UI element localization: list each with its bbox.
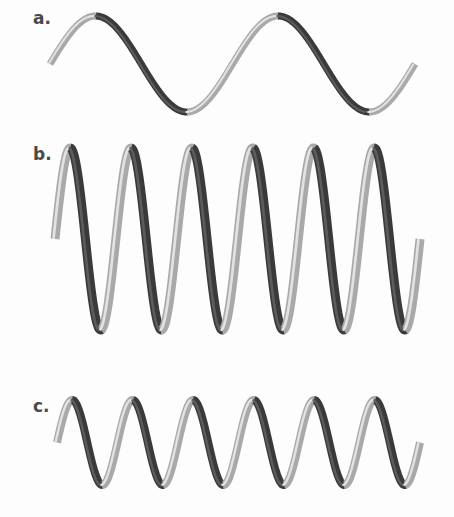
waves-svg <box>0 0 454 517</box>
ribbon-falling-segment <box>314 400 345 485</box>
ribbon-rising-segment <box>222 148 254 330</box>
ribbon-highlight <box>186 16 278 112</box>
ribbon-falling-segment <box>278 16 370 112</box>
ribbon-rising-segment <box>344 400 376 485</box>
wave-c <box>56 400 421 485</box>
ribbon-falling-segment <box>192 148 223 330</box>
ribbon-falling-segment <box>96 16 188 112</box>
ribbon-falling-segment <box>374 148 406 330</box>
ribbon-highlight <box>95 16 187 112</box>
ribbon-rising-segment <box>163 400 194 485</box>
wave-b <box>54 148 421 330</box>
ribbon-falling-segment <box>131 148 162 330</box>
ribbon-rising-segment <box>187 16 279 112</box>
ribbon-rising-segment <box>102 400 134 485</box>
ribbon-rising-segment <box>223 400 255 485</box>
ribbon-rising-segment <box>284 400 315 485</box>
ribbon-rising-segment <box>344 148 375 330</box>
ribbon-rising-segment <box>283 148 315 330</box>
ribbon-falling-segment <box>193 400 224 485</box>
ribbon-rising-segment <box>50 16 97 64</box>
ribbon-rising-segment <box>161 148 193 330</box>
wave-figure: a. b. c. <box>0 0 454 517</box>
wave-a <box>49 16 416 112</box>
ribbon-falling-segment <box>70 148 102 330</box>
ribbon-highlight <box>277 16 369 112</box>
ribbon-falling-segment <box>72 400 103 485</box>
